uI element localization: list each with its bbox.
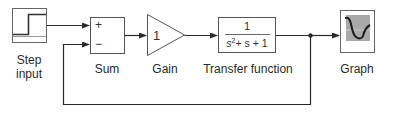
block-diagram: + − 1 1 s2+ s + 1 xyxy=(0,0,394,115)
gain-label: Gain xyxy=(140,62,190,76)
step-label-line1: Step xyxy=(2,53,56,67)
sum-block[interactable]: + − xyxy=(91,18,125,54)
sum-label: Sum xyxy=(82,62,132,76)
transfer-function-block[interactable]: 1 s2+ s + 1 xyxy=(219,18,276,53)
graph-label: Graph xyxy=(332,62,382,76)
tf-numerator: 1 xyxy=(244,20,250,32)
graph-block[interactable] xyxy=(341,11,375,53)
sum-minus-sign: − xyxy=(95,37,102,51)
transfer-function-label: Transfer function xyxy=(196,62,300,76)
gain-value: 1 xyxy=(153,28,160,43)
step-input-block[interactable] xyxy=(13,9,47,43)
sum-plus-sign: + xyxy=(95,18,102,32)
gain-block[interactable]: 1 xyxy=(148,15,185,56)
step-input-label: Step input xyxy=(2,53,56,81)
step-label-line2: input xyxy=(2,67,56,81)
